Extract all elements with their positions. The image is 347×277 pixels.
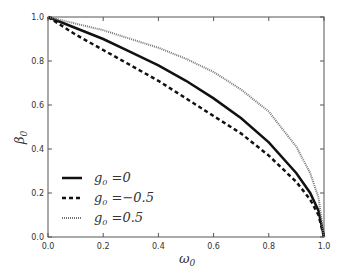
y-tick-label: 1.0: [31, 13, 44, 22]
y-tick-label: 0.4: [31, 145, 44, 154]
series-line-solid: [48, 17, 324, 237]
x-tick-label: 1.0: [318, 242, 331, 251]
axis-ticks: 0.00.20.40.60.81.00.00.20.40.60.81.0: [31, 13, 330, 251]
x-tick-label: 0.4: [152, 242, 165, 251]
plot-frame: [48, 17, 324, 237]
x-axis-label: ω0: [179, 251, 196, 268]
data-series: [48, 17, 324, 237]
svg-text:β0: β0: [12, 130, 29, 145]
x-tick-label: 0.2: [97, 242, 110, 251]
y-axis-label: β0: [12, 130, 29, 145]
svg-text:ω0: ω0: [179, 251, 196, 268]
y-tick-label: 0.0: [31, 233, 44, 242]
x-tick-label: 0.8: [262, 242, 275, 251]
series-line-dotted: [48, 17, 324, 237]
y-tick-label: 0.2: [31, 189, 44, 198]
x-tick-label: 0.6: [207, 242, 220, 251]
legend: g0 =0 g0 =−0.5 g0 =0.5: [62, 170, 154, 227]
legend-label-g0-05: g0 =0.5: [94, 210, 143, 227]
legend-label-g0-neg05: g0 =−0.5: [94, 190, 154, 207]
line-chart: 0.00.20.40.60.81.00.00.20.40.60.81.0 ω0 …: [0, 0, 347, 277]
y-tick-label: 0.6: [31, 101, 44, 110]
y-tick-label: 0.8: [31, 57, 44, 66]
x-tick-label: 0.0: [42, 242, 55, 251]
series-line-dashed: [48, 17, 324, 237]
legend-label-g0-0: g0 =0: [94, 170, 131, 187]
